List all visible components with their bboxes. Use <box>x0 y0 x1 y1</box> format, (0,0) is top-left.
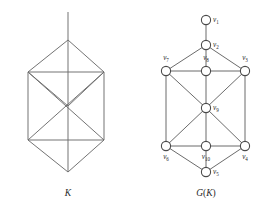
complex-edge <box>28 72 68 106</box>
figure-container: v1v2v7v8v3v9v6v10v4v5 K G(K) <box>0 0 255 210</box>
complex-edge <box>28 40 68 72</box>
graph-vertex-v8 <box>201 66 210 75</box>
graph-vertex-v10 <box>201 141 210 150</box>
graph-edge-v3-v9 <box>206 71 245 108</box>
vertex-label-v1: v1 <box>213 16 219 25</box>
vertex-label-v4: v4 <box>242 153 248 162</box>
vertex-label-v3: v3 <box>242 54 248 63</box>
caption-K: K <box>64 188 72 198</box>
complex-edge <box>68 140 104 172</box>
vertex-label-v9: v9 <box>213 104 219 113</box>
complex-edge <box>68 72 104 106</box>
graph-vertex-v4 <box>240 141 249 150</box>
vertex-label-v2: v2 <box>213 41 219 50</box>
graph-edge-v4-v5 <box>206 146 245 172</box>
vertex-label-v6: v6 <box>163 153 169 162</box>
graph-edge-v7-v9 <box>166 71 206 108</box>
graph-vertex-v1 <box>201 15 210 24</box>
graph-edge-v2-v7 <box>166 45 206 71</box>
graph-vertex-v3 <box>240 66 249 75</box>
graph-edge-v9-v6 <box>166 108 206 146</box>
figure-svg: v1v2v7v8v3v9v6v10v4v5 K G(K) <box>0 0 255 210</box>
caption-GK: G(K) <box>196 188 216 199</box>
graph-edge-v2-v3 <box>206 45 245 71</box>
graph-edge-v9-v4 <box>206 108 245 146</box>
graph-vertex-v9 <box>201 103 210 112</box>
vertex-label-v8: v8 <box>203 54 209 63</box>
complex-edge <box>68 40 104 72</box>
graph-vertex-v6 <box>161 141 170 150</box>
graph-vertex-v7 <box>161 66 170 75</box>
graph-vertex-v5 <box>201 167 210 176</box>
graph-vertex-v2 <box>201 40 210 49</box>
complex-K-edges <box>28 12 104 172</box>
complex-edge <box>28 140 68 172</box>
vertex-label-v7: v7 <box>163 54 169 63</box>
graph-edge-v6-v5 <box>166 146 206 172</box>
vertex-label-v5: v5 <box>213 168 219 177</box>
graph-GK-nodes <box>161 15 249 176</box>
